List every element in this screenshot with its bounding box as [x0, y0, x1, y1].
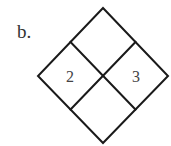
diamond-diagram: 2 3 — [0, 0, 171, 146]
cell-left: 2 — [66, 68, 74, 85]
cell-right: 3 — [132, 68, 140, 85]
